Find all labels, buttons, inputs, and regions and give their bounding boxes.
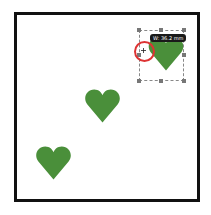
resize-handle-e[interactable] — [182, 53, 186, 57]
measurement-tooltip: W: 36.2 mm — [150, 34, 186, 42]
resize-handle-se[interactable] — [182, 79, 186, 83]
resize-handle-s[interactable] — [159, 79, 163, 83]
heart-shape-lower[interactable] — [35, 145, 72, 181]
resize-handle-ne[interactable] — [182, 28, 186, 32]
resize-handle-n[interactable] — [159, 28, 163, 32]
resize-handle-sw[interactable] — [137, 79, 141, 83]
heart-icon — [84, 88, 121, 124]
heart-shape-middle[interactable] — [84, 88, 121, 124]
heart-icon — [35, 145, 72, 181]
move-cursor-icon — [141, 48, 146, 53]
resize-handle-nw[interactable] — [137, 28, 141, 32]
